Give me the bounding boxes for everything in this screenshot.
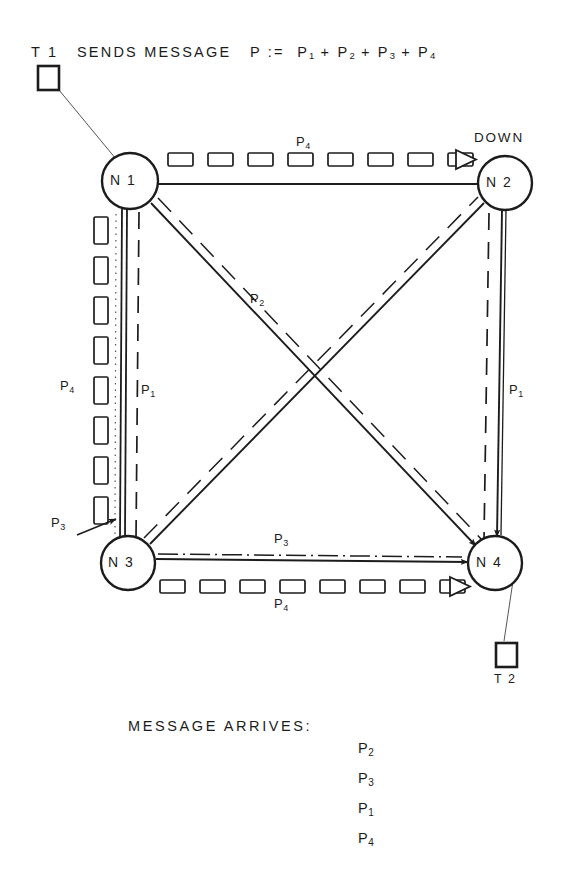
terminal-t1-leader [59, 90, 116, 159]
terminal-t1-box [38, 66, 59, 90]
edge-n3-n4-solid [156, 559, 468, 562]
network-packet-routing-diagram: T 1 SENDS MESSAGE P := P1 + P2 + P3 + P4… [0, 0, 587, 880]
header-term-2: P2 [338, 44, 355, 60]
edge-label-n1-n4-p2: P2 [250, 291, 265, 308]
edge-label-n2-n4-p1: P1 [509, 382, 524, 399]
header-equation: T 1 SENDS MESSAGE P := P1 + P2 + P3 + P4 [31, 44, 435, 61]
header-eq-assign: := [268, 44, 285, 60]
edge-n1-n4-dashed [158, 198, 482, 540]
edge-n1-n3-solid-a [120, 209, 122, 537]
terminal-t2-leader [504, 581, 513, 641]
arrival-item-2: P3 [358, 770, 374, 788]
node-n4-label: N 4 [476, 554, 502, 570]
header-term-4: P4 [418, 44, 435, 60]
terminal-t2-box [496, 643, 517, 667]
edge-n3-n4-dashdot-p3 [158, 554, 462, 557]
edge-n3-n4-packet-queue [160, 580, 465, 593]
edge-label-n3-inbound-p3: P3 [51, 515, 66, 532]
message-arrives-title: MESSAGE ARRIVES: [128, 718, 312, 734]
edge-n2-n4-dashed-p1 [484, 213, 489, 539]
edge-n1-n3-solid-b [125, 209, 127, 537]
edge-label-n1-n3-p1: P1 [141, 382, 156, 399]
edge-label-n1-n3-p4: P4 [60, 378, 75, 395]
node-n3-label: N 3 [108, 554, 134, 570]
arrival-item-1: P2 [358, 740, 374, 758]
edge-n1-n3-packet-queue [94, 217, 108, 524]
terminal-t2-label: T 2 [494, 672, 517, 686]
edge-n1-n2-packet-queue [168, 153, 473, 166]
header-action-text: SENDS MESSAGE [77, 44, 231, 60]
edge-label-n1-n2: P4 [296, 134, 311, 151]
node-n1-label: N 1 [110, 172, 136, 188]
arrival-item-4: P4 [358, 830, 374, 848]
header-terminal-id: T 1 [31, 44, 58, 60]
edge-label-n3-n4-p3: P3 [274, 531, 289, 548]
edge-n1-n3-dotted [115, 214, 116, 534]
edge-n1-n3-dashed-p1 [136, 212, 139, 539]
header-eq-lhs: P [250, 44, 262, 60]
node-n2-label: N 2 [486, 174, 512, 190]
node-n2-status-badge: DOWN [474, 130, 524, 145]
arrival-item-3: P1 [358, 800, 374, 818]
header-term-3: P3 [378, 44, 395, 60]
edge-label-n3-n4-p4: P4 [274, 596, 289, 613]
header-term-1: P1 [297, 44, 314, 60]
